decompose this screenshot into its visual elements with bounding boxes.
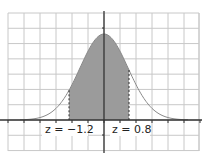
left-z-label: z = −1.2 (45, 123, 94, 136)
normal-distribution-chart: z = −1.2 z = 0.8 (0, 0, 202, 160)
right-z-label: z = 0.8 (112, 123, 151, 136)
